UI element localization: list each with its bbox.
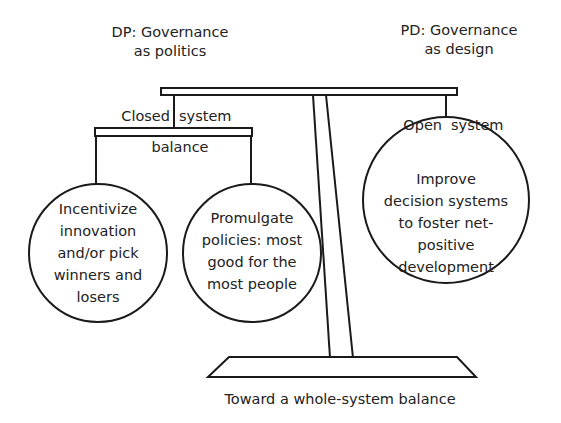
circle-line: winners and [54,264,143,286]
title-right-line1: PD: Governance [389,21,529,40]
circle-line: Promulgate [210,207,293,229]
circle-text-promulgate: Promulgate policies: most good for the m… [186,203,318,299]
closed-system-label-left: Closed [116,107,170,126]
circle-line: decision systems [384,190,508,212]
title-left-line2: as politics [100,42,240,61]
title-right-line2: as design [389,40,529,59]
closed-system-label-right: system [179,107,239,126]
title-governance-as-design: PD: Governance as design [389,21,529,59]
circle-line: most people [207,273,297,295]
circle-line: to foster net- [399,212,494,234]
open-system-label-right: system [451,116,511,135]
circle-line: good for the [207,251,296,273]
circle-line: innovation [60,220,137,242]
caption: Toward a whole-system balance [200,390,480,409]
circle-line: policies: most [202,229,302,251]
scale-base [208,357,476,377]
circle-line: and/or pick [57,242,138,264]
circle-line: positive [418,234,475,256]
open-system-label-left: Open [396,116,442,135]
circle-line: Incentivize [59,198,137,220]
top-beam [161,88,457,95]
circle-line: Improve [416,168,476,190]
circle-text-improve: Improve decision systems to foster net- … [372,167,520,279]
circle-line: losers [77,286,120,308]
sub-beam [95,128,252,136]
scale-diagram: DP: Governance as politics PD: Governanc… [0,0,561,423]
circle-text-incentivize: Incentivize innovation and/or pick winne… [34,194,162,312]
balance-label: balance [140,138,220,157]
circle-line: development [398,256,494,278]
title-governance-as-politics: DP: Governance as politics [100,23,240,61]
post-right-edge [326,95,353,358]
title-left-line1: DP: Governance [100,23,240,42]
